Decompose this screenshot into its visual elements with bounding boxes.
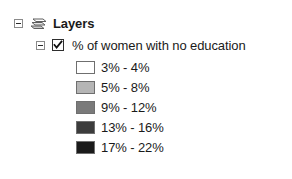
legend-item[interactable]: 17% - 22% [76, 137, 164, 157]
legend-item[interactable]: 5% - 8% [76, 77, 164, 97]
table-of-contents-panel: Layers % of women with no education 3% -… [0, 0, 292, 179]
legend-label: 9% - 12% [101, 100, 157, 115]
legend-label: 17% - 22% [101, 140, 164, 155]
layers-group-label: Layers [53, 16, 94, 31]
legend-label: 5% - 8% [101, 80, 149, 95]
legend-label: 13% - 16% [101, 120, 164, 135]
tree-row-layer-women-no-education[interactable]: % of women with no education [36, 35, 246, 55]
legend-item[interactable]: 3% - 4% [76, 57, 164, 77]
layer-visibility-checkbox[interactable] [52, 39, 64, 51]
layers-stack-icon [30, 16, 47, 31]
legend-swatch[interactable] [76, 141, 95, 154]
legend-swatch[interactable] [76, 121, 95, 134]
collapse-expander-layers[interactable] [14, 19, 23, 28]
legend-class-list: 3% - 4% 5% - 8% 9% - 12% 13% - 16% 17% -… [76, 57, 164, 157]
layer-label: % of women with no education [72, 38, 246, 53]
collapse-expander-layer[interactable] [36, 41, 45, 50]
legend-swatch[interactable] [76, 101, 95, 114]
legend-item[interactable]: 9% - 12% [76, 97, 164, 117]
tree-row-layers[interactable]: Layers [14, 13, 94, 33]
legend-item[interactable]: 13% - 16% [76, 117, 164, 137]
legend-swatch[interactable] [76, 81, 95, 94]
legend-label: 3% - 4% [101, 60, 149, 75]
legend-swatch[interactable] [76, 61, 95, 74]
